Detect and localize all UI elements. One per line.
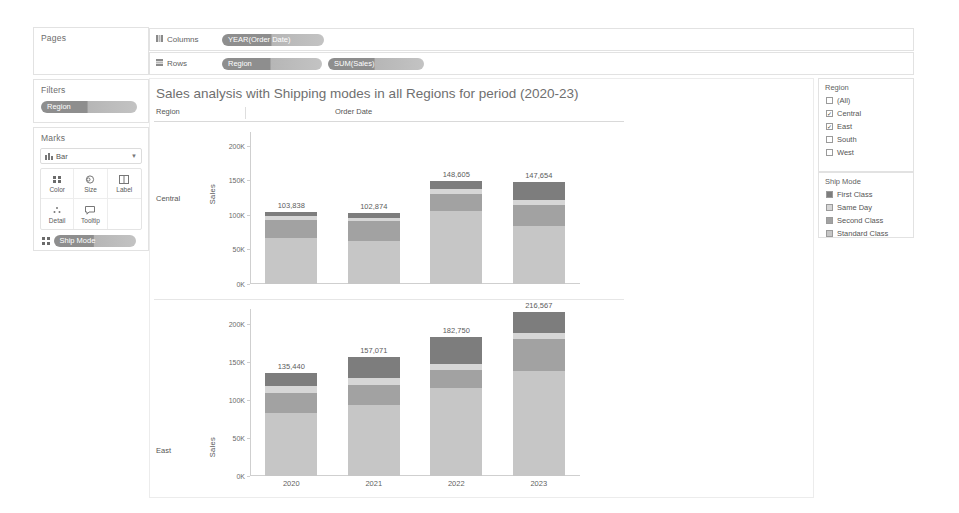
bar-segment[interactable] — [265, 238, 317, 284]
region-filter-item[interactable]: ✓East — [819, 120, 913, 133]
marks-card[interactable]: Marks Bar ▼ Color Size Label — [33, 127, 149, 251]
checkbox-checked-icon[interactable]: ✓ — [826, 110, 833, 117]
mark-button-empty — [108, 199, 141, 229]
bar-segment[interactable] — [430, 211, 482, 284]
region-filter-item[interactable]: West — [819, 146, 913, 159]
y-axis-tick-label: 50K — [233, 435, 245, 442]
bar-segment[interactable] — [265, 220, 317, 238]
bar-segment[interactable] — [348, 378, 400, 385]
region-filter-item[interactable]: South — [819, 133, 913, 146]
bar-stack[interactable]: 102,874 — [348, 132, 400, 284]
bar-segment[interactable] — [348, 221, 400, 241]
mark-button-size[interactable]: Size — [74, 169, 107, 199]
bar-mark-icon — [45, 151, 53, 162]
ship-mode-legend-item[interactable]: Second Class — [819, 214, 913, 227]
bar-stack[interactable]: 147,654 — [513, 132, 565, 284]
chevron-down-icon[interactable]: ▼ — [131, 153, 137, 159]
bar-segment[interactable] — [513, 339, 565, 371]
rows-pill-sum-sales[interactable]: SUM(Sales) — [328, 58, 424, 70]
bar-segment[interactable] — [348, 405, 400, 476]
ship-mode-legend[interactable]: Ship Mode First ClassSame DaySecond Clas… — [818, 172, 914, 238]
ship-mode-legend-item[interactable]: Standard Class — [819, 227, 913, 240]
region-filter-item-label: West — [837, 148, 854, 157]
region-filter-legend[interactable]: Region (All)✓Central✓EastSouthWest — [818, 78, 914, 172]
chart-plot-central[interactable]: 0K50K100K150K200K 103,838102,874148,6051… — [250, 132, 580, 284]
bar-stack[interactable]: 157,071 — [348, 309, 400, 476]
y-axis-tick-label: 0K — [236, 281, 245, 288]
rows-shelf-label: Rows — [156, 59, 216, 68]
y-axis-tick-label: 150K — [229, 359, 245, 366]
region-filter-item[interactable]: ✓Central — [819, 107, 913, 120]
rows-pill-region[interactable]: Region — [222, 58, 322, 70]
y-axis-tick-label: 50K — [233, 246, 245, 253]
pages-card[interactable]: Pages — [33, 27, 149, 75]
bar-stack[interactable]: 216,567 — [513, 309, 565, 476]
x-axis-tick-label: 2020 — [265, 476, 317, 490]
bar-stack[interactable]: 135,440 — [265, 309, 317, 476]
ship-mode-legend-item[interactable]: First Class — [819, 188, 913, 201]
mark-button-label[interactable]: Label — [108, 169, 141, 199]
color-icon — [53, 174, 61, 185]
checkbox-checked-icon[interactable]: ✓ — [826, 123, 833, 130]
legend-color-swatch — [826, 204, 833, 211]
bar-segment[interactable] — [348, 241, 400, 284]
bar-segment[interactable] — [513, 312, 565, 333]
viz-header-row: Region Order Date — [150, 107, 813, 122]
chart-plot-east[interactable]: 0K50K100K150K200K 135,440157,071182,7502… — [250, 309, 580, 476]
mark-button-detail[interactable]: Detail — [41, 199, 74, 229]
bar-segment[interactable] — [430, 370, 482, 388]
ship-mode-legend-item[interactable]: Same Day — [819, 201, 913, 214]
y-axis-tick-label: 100K — [229, 397, 245, 404]
region-filter-item[interactable]: (All) — [819, 94, 913, 107]
bar-stack[interactable]: 182,750 — [430, 309, 482, 476]
x-axis-labels: 2020202120222023 — [250, 476, 580, 490]
bar-segment[interactable] — [513, 371, 565, 477]
bar-segment[interactable] — [265, 413, 317, 476]
rows-icon — [156, 59, 163, 68]
bar-segment[interactable] — [513, 182, 565, 200]
bar-stack[interactable]: 103,838 — [265, 132, 317, 284]
bar-segment[interactable] — [265, 393, 317, 413]
bar-segment[interactable] — [348, 357, 400, 378]
column-header-order-date: Order Date — [335, 107, 372, 116]
region-filter-title: Region — [819, 79, 913, 94]
visualization-pane[interactable]: Sales analysis with Shipping modes in al… — [149, 78, 814, 498]
columns-shelf[interactable]: Columns YEAR(Order Date) — [149, 28, 914, 51]
bar-segment[interactable] — [430, 388, 482, 476]
bar-segment[interactable] — [430, 337, 482, 363]
bar-total-label: 148,605 — [443, 170, 470, 179]
checkbox-unchecked-icon[interactable] — [826, 97, 833, 104]
bar-segment[interactable] — [265, 373, 317, 385]
mark-button-color[interactable]: Color — [41, 169, 74, 199]
ship-mode-legend-item-label: First Class — [837, 190, 872, 199]
region-filter-item-label: South — [837, 135, 857, 144]
bar-segment[interactable] — [430, 194, 482, 212]
mark-type-label: Bar — [56, 152, 68, 161]
bar-segment[interactable] — [265, 386, 317, 394]
mark-type-select[interactable]: Bar ▼ — [40, 148, 142, 164]
ship-mode-legend-item-label: Standard Class — [837, 229, 888, 238]
filters-card[interactable]: Filters Region — [33, 79, 149, 123]
ship-mode-legend-item-label: Same Day — [837, 203, 872, 212]
bar-segment[interactable] — [513, 205, 565, 226]
y-axis-tick-label: 0K — [236, 473, 245, 480]
row-header-central: Central — [156, 194, 180, 203]
checkbox-unchecked-icon[interactable] — [826, 136, 833, 143]
bar-total-label: 102,874 — [360, 202, 387, 211]
bar-stack[interactable]: 148,605 — [430, 132, 482, 284]
filter-pill-region[interactable]: Region — [41, 101, 137, 113]
bar-total-label: 157,071 — [360, 346, 387, 355]
ship-mode-legend-item-label: Second Class — [837, 216, 883, 225]
rows-shelf[interactable]: Rows Region SUM(Sales) — [149, 52, 914, 75]
bar-segment[interactable] — [513, 226, 565, 284]
bar-group-east: 135,440157,071182,750216,567 — [250, 309, 580, 476]
bar-segment[interactable] — [430, 181, 482, 189]
mark-button-color-label: Color — [49, 186, 65, 193]
mark-button-tooltip[interactable]: Tooltip — [74, 199, 107, 229]
checkbox-unchecked-icon[interactable] — [826, 149, 833, 156]
encoding-pill-ship-mode[interactable]: Ship Mode — [54, 235, 136, 247]
page-title: Sales analysis with Shipping modes in al… — [156, 86, 578, 101]
columns-pill-year-order-date[interactable]: YEAR(Order Date) — [222, 34, 324, 46]
filters-pill-list: Region — [34, 95, 148, 117]
bar-segment[interactable] — [348, 385, 400, 405]
